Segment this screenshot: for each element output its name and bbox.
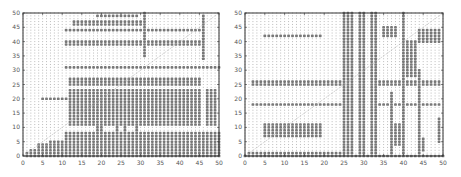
x-tick-label: 40	[400, 159, 408, 166]
x-tick-label: 15	[78, 159, 86, 166]
y-tick-label: 45	[12, 23, 20, 30]
x-tick-label: 25	[340, 159, 348, 166]
x-tick-label: 0	[21, 159, 25, 166]
x-tick-label: 20	[320, 159, 328, 166]
x-tick-label: 45	[196, 159, 204, 166]
y-tick-label: 40	[234, 38, 242, 45]
chart-left: 0510152025303540455005101520253035404550	[0, 0, 230, 177]
y-tick-label: 35	[12, 52, 20, 59]
y-tick-label: 0	[238, 152, 242, 159]
x-tick-label: 40	[176, 159, 184, 166]
x-tick-label: 15	[301, 159, 309, 166]
y-tick-label: 20	[12, 95, 20, 102]
x-tick-label: 10	[281, 159, 289, 166]
y-tick-label: 5	[238, 138, 242, 145]
y-tick-label: 5	[16, 138, 20, 145]
x-tick-label: 20	[98, 159, 106, 166]
y-tick-label: 30	[234, 66, 242, 73]
y-tick-label: 10	[234, 123, 242, 130]
x-tick-label: 10	[58, 159, 66, 166]
x-tick-label: 35	[380, 159, 388, 166]
y-tick-label: 50	[234, 9, 242, 16]
diagonal-line	[245, 13, 443, 156]
y-tick-label: 15	[234, 109, 242, 116]
y-tick-label: 25	[234, 81, 242, 88]
chart-right: 0510152025303540455005101520253035404550	[230, 0, 461, 177]
x-tick-label: 30	[360, 159, 368, 166]
x-tick-label: 35	[156, 159, 164, 166]
x-tick-label: 5	[41, 159, 45, 166]
y-tick-label: 15	[12, 109, 20, 116]
x-tick-label: 30	[137, 159, 145, 166]
y-tick-label: 20	[234, 95, 242, 102]
y-tick-label: 35	[234, 52, 242, 59]
scatter-plot-right: 0510152025303540455005101520253035404550	[230, 0, 461, 177]
scatter-plot-left: 0510152025303540455005101520253035404550	[0, 0, 230, 177]
x-tick-label: 25	[117, 159, 125, 166]
x-tick-label: 50	[439, 159, 447, 166]
x-tick-label: 0	[243, 159, 247, 166]
y-tick-label: 10	[12, 123, 20, 130]
y-tick-label: 45	[234, 23, 242, 30]
x-tick-label: 5	[263, 159, 267, 166]
y-tick-label: 50	[12, 9, 20, 16]
y-tick-label: 0	[16, 152, 20, 159]
x-tick-label: 50	[215, 159, 223, 166]
y-tick-label: 30	[12, 66, 20, 73]
y-tick-label: 25	[12, 81, 20, 88]
y-tick-label: 40	[12, 38, 20, 45]
x-tick-label: 45	[419, 159, 427, 166]
